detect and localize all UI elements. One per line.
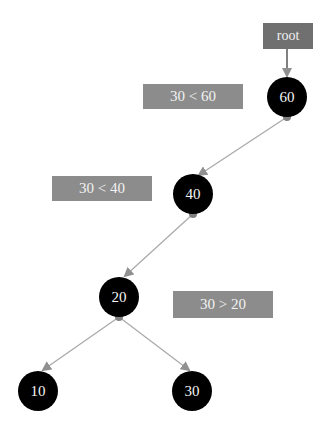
edge-40-20 (125, 214, 193, 276)
tree-node-60: 60 (267, 77, 307, 117)
edge-60-40 (199, 117, 287, 175)
tree-node-40: 40 (173, 174, 213, 214)
tree-node-30: 30 (172, 371, 212, 411)
comparison-label-30-20: 30 > 20 (173, 291, 273, 318)
tree-node-20: 20 (99, 277, 139, 317)
comparison-label-30-40: 30 < 40 (52, 176, 152, 201)
tree-node-10: 10 (18, 371, 58, 411)
root-label: root (263, 23, 313, 49)
edge-20-30 (119, 317, 189, 370)
tree-edges (0, 0, 328, 435)
comparison-label-30-60: 30 < 60 (143, 84, 243, 109)
edge-20-10 (43, 317, 119, 370)
